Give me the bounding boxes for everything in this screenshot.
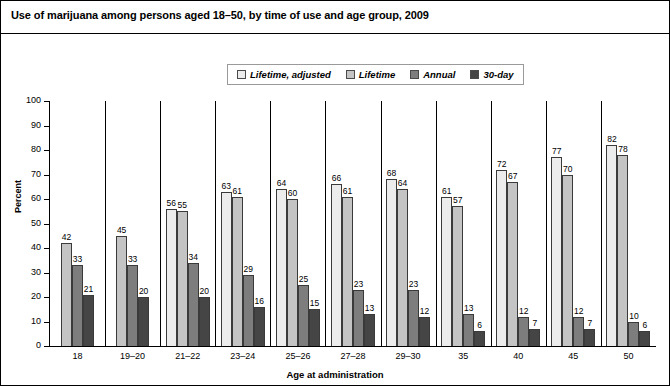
bar-column[interactable]: 12 (419, 101, 430, 346)
bar[interactable] (127, 265, 138, 346)
bar-column[interactable]: 57 (452, 101, 463, 346)
bar[interactable] (452, 206, 463, 346)
bar[interactable] (331, 184, 342, 346)
bar[interactable] (61, 243, 72, 346)
bar-column[interactable]: 16 (254, 101, 265, 346)
bar-value-label: 13 (464, 304, 473, 313)
bar-column[interactable]: 12 (573, 101, 584, 346)
bar[interactable] (529, 329, 540, 346)
bar[interactable] (419, 317, 430, 346)
bar[interactable] (364, 314, 375, 346)
bar-group-bars: 6157136 (436, 101, 491, 346)
bar-column[interactable]: 20 (199, 101, 210, 346)
legend-swatch-icon (346, 70, 355, 79)
bar[interactable] (606, 145, 617, 346)
bar[interactable] (298, 285, 309, 346)
bar[interactable] (496, 170, 507, 346)
bar-column[interactable]: 60 (287, 101, 298, 346)
bar-value-label: 68 (387, 169, 396, 178)
bar-column[interactable]: 70 (562, 101, 573, 346)
bar-column[interactable]: 63 (221, 101, 232, 346)
bar-column[interactable]: 68 (386, 101, 397, 346)
bar-column[interactable]: 6 (639, 101, 650, 346)
bar-column[interactable]: 61 (232, 101, 243, 346)
bar[interactable] (188, 263, 199, 346)
bar[interactable] (584, 329, 595, 346)
bar[interactable] (138, 297, 149, 346)
bar[interactable] (628, 322, 639, 347)
bar[interactable] (441, 197, 452, 346)
bar-column[interactable]: 42 (61, 101, 72, 346)
bar[interactable] (243, 275, 254, 346)
bar[interactable] (386, 179, 397, 346)
bar[interactable] (199, 297, 210, 346)
bar[interactable] (507, 182, 518, 346)
bar-column[interactable]: 34 (188, 101, 199, 346)
legend-item: Lifetime (346, 69, 395, 80)
bar-column[interactable]: 33 (127, 101, 138, 346)
bar-column[interactable]: 25 (298, 101, 309, 346)
bar-column[interactable]: 72 (496, 101, 507, 346)
y-axis-title: Percent (13, 180, 23, 213)
bar[interactable] (309, 309, 320, 346)
bar[interactable] (408, 290, 419, 346)
bar[interactable] (562, 175, 573, 347)
group-separator (270, 101, 271, 346)
bar[interactable] (116, 236, 127, 346)
bar[interactable] (276, 189, 287, 346)
bar[interactable] (397, 189, 408, 346)
bar-value-label: 77 (552, 147, 561, 156)
bar-column[interactable]: 78 (617, 101, 628, 346)
bar-column[interactable]: 7 (529, 101, 540, 346)
bar-column[interactable]: 13 (463, 101, 474, 346)
bar-column[interactable]: 13 (364, 101, 375, 346)
bar-column[interactable]: 45 (116, 101, 127, 346)
bar-column[interactable]: 15 (309, 101, 320, 346)
bar-group-bars: 56553420 (160, 101, 215, 346)
bar[interactable] (166, 209, 177, 346)
bar[interactable] (177, 211, 188, 346)
bar[interactable] (518, 317, 529, 346)
bar[interactable] (353, 290, 364, 346)
bar[interactable] (474, 331, 485, 346)
bar[interactable] (551, 157, 562, 346)
bar[interactable] (342, 197, 353, 346)
plot-area: 0102030405060708090100 4233211845332019–… (49, 101, 656, 346)
bar-column[interactable]: 23 (353, 101, 364, 346)
bar[interactable] (639, 331, 650, 346)
bar-column[interactable]: 66 (331, 101, 342, 346)
bar[interactable] (254, 307, 265, 346)
bar-column[interactable]: 23 (408, 101, 419, 346)
bar-column[interactable]: 61 (342, 101, 353, 346)
bar-column[interactable]: 7 (584, 101, 595, 346)
bar[interactable] (232, 197, 243, 346)
bar[interactable] (617, 155, 628, 346)
bar-column[interactable]: 82 (606, 101, 617, 346)
bar[interactable] (83, 295, 94, 346)
bar[interactable] (72, 265, 83, 346)
bar-column[interactable]: 33 (72, 101, 83, 346)
bar[interactable] (221, 192, 232, 346)
bar-value-label: 23 (354, 280, 363, 289)
bar-column[interactable]: 61 (441, 101, 452, 346)
bar-column[interactable]: 6 (474, 101, 485, 346)
x-tick-label: 21–22 (160, 351, 215, 361)
bar-column[interactable]: 12 (518, 101, 529, 346)
bar-column[interactable]: 77 (551, 101, 562, 346)
bar-value-label: 7 (587, 319, 592, 328)
bar-column[interactable]: 29 (243, 101, 254, 346)
bar-column[interactable]: 64 (276, 101, 287, 346)
bar-column[interactable]: 64 (397, 101, 408, 346)
bar-column[interactable]: 56 (166, 101, 177, 346)
bar-column[interactable]: 10 (628, 101, 639, 346)
y-tick-label: 0 (36, 340, 41, 350)
bar-column[interactable]: 67 (507, 101, 518, 346)
bar[interactable] (463, 314, 474, 346)
bar-group-bars: 64602515 (270, 101, 325, 346)
bar-column[interactable]: 20 (138, 101, 149, 346)
bar-column[interactable]: 21 (83, 101, 94, 346)
bar[interactable] (287, 199, 298, 346)
bar-column[interactable]: 55 (177, 101, 188, 346)
bar-value-label: 63 (222, 182, 231, 191)
bar[interactable] (573, 317, 584, 346)
